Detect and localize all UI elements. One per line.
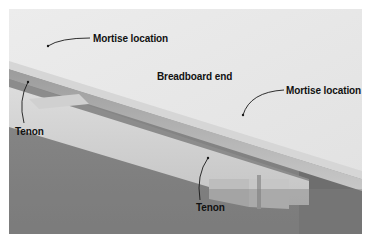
workpiece-photo: [9, 9, 362, 234]
label-breadboard-end: Breadboard end: [157, 71, 232, 82]
photo-scene: [9, 9, 362, 234]
label-mortise-location-left: Mortise location: [93, 33, 168, 44]
label-mortise-location-right: Mortise location: [286, 85, 361, 96]
label-tenon-left: Tenon: [15, 126, 44, 137]
label-tenon-bottom: Tenon: [196, 202, 225, 213]
